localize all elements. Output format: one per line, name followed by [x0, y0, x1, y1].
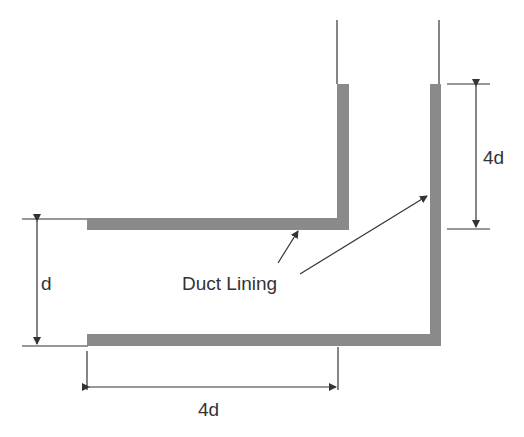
arrow-to-inner-lining	[278, 231, 298, 263]
duct-walls	[22, 20, 439, 346]
label-vertical-4d: 4d	[483, 148, 504, 167]
arrow-to-outer-lining	[300, 196, 427, 274]
outer-lining-vertical	[430, 84, 441, 346]
inner-lining-horizontal	[87, 218, 349, 230]
label-horizontal-4d: 4d	[198, 400, 219, 419]
lining-leader-arrows	[278, 196, 427, 274]
outer-lining-horizontal	[87, 334, 441, 346]
label-duct-lining: Duct Lining	[182, 274, 277, 293]
dimension-horizontal-4d	[87, 347, 338, 390]
inner-lining-vertical	[337, 84, 349, 230]
duct-diagram: d Duct Lining 4d 4d	[0, 0, 524, 437]
label-d: d	[41, 274, 52, 293]
diagram-graphics	[0, 0, 524, 437]
duct-lining	[87, 84, 441, 346]
